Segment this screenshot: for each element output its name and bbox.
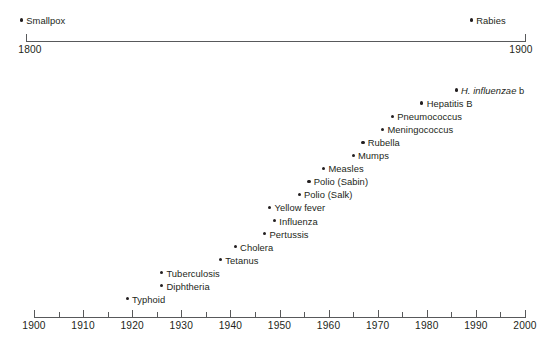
timeline-point-meningococcus: Meningococcus [381,123,453,135]
timeline-point-label: Typhoid [129,294,165,305]
timeline-point-smallpox: Smallpox [20,14,65,26]
point-marker-icon [298,193,301,196]
point-marker-icon [20,18,23,21]
timeline-point-label: Tetanus [222,255,258,266]
vaccine-timeline-chart: SmallpoxRabies18001900 H. influenzae bHe… [0,0,560,353]
timeline-point-mumps: Mumps [352,149,389,161]
timeline-point-label: Rubella [365,137,400,148]
timeline-point-rubella: Rubella [361,136,400,148]
timeline-point-label: Diphtheria [163,281,209,292]
timeline-point-label: Cholera [237,242,273,253]
modern-era-minor-tick-1955 [304,312,305,317]
early-era-tick-1800 [26,34,27,41]
modern-era-tick-label-2000: 2000 [495,320,555,331]
modern-era-tick-1980 [427,310,428,317]
point-marker-icon [352,154,355,157]
modern-era-axis-line [34,317,526,318]
point-marker-icon [307,180,310,183]
timeline-point-label: Mumps [355,150,389,161]
timeline-point-pneumococcus: Pneumococcus [391,110,462,122]
point-marker-icon [470,18,473,21]
modern-era-minor-tick-1995 [500,312,501,317]
timeline-point-typhoid: Typhoid [126,293,166,305]
point-marker-icon [391,115,394,118]
modern-era-minor-tick-1975 [402,312,403,317]
timeline-point-pertussis: Pertussis [263,228,308,240]
timeline-point-label: Yellow fever [271,202,325,213]
timeline-point-label: Polio (Sabin) [311,176,369,187]
timeline-point-label: Tuberculosis [163,268,220,279]
modern-era-tick-1960 [329,310,330,317]
modern-era-tick-1970 [378,310,379,317]
timeline-point-tetanus: Tetanus [219,254,259,266]
timeline-point-label: Hepatitis B [423,98,472,109]
point-marker-icon [381,128,384,131]
modern-era-tick-1910 [83,310,84,317]
timeline-point-h-influenzae: H. influenzae b [455,84,525,96]
timeline-point-label: H. influenzae b [458,85,524,96]
modern-era-minor-tick-1915 [108,312,109,317]
timeline-point-diphtheria: Diphtheria [160,280,210,292]
timeline-point-yellow-fever: Yellow fever [268,201,325,213]
early-era-tick-label-1800: 1800 [0,44,60,55]
modern-era-minor-tick-1925 [157,312,158,317]
modern-era-minor-tick-1945 [255,312,256,317]
modern-era-minor-tick-1935 [206,312,207,317]
point-marker-icon [361,141,364,144]
timeline-point-polio-sabin: Polio (Sabin) [307,175,368,187]
timeline-point-rabies: Rabies [470,14,506,26]
modern-era-tick-1950 [280,310,281,317]
timeline-point-tuberculosis: Tuberculosis [160,267,220,279]
timeline-point-label: Polio (Salk) [301,189,353,200]
timeline-point-label: Pertussis [266,229,308,240]
modern-era-tick-1930 [181,310,182,317]
modern-era-tick-2000 [525,310,526,317]
point-marker-icon [455,88,458,91]
modern-era-minor-tick-1905 [59,312,60,317]
modern-era-minor-tick-1965 [353,312,354,317]
timeline-point-polio-salk: Polio (Salk) [298,188,353,200]
timeline-point-cholera: Cholera [234,241,274,253]
modern-era-minor-tick-1985 [451,312,452,317]
timeline-point-hepatitis-b: Hepatitis B [420,97,472,109]
timeline-point-influenza: Influenza [273,215,318,227]
modern-era-tick-1990 [476,310,477,317]
timeline-point-label: Smallpox [23,15,65,26]
timeline-point-label: Influenza [276,216,318,227]
modern-era-tick-1920 [132,310,133,317]
modern-era-tick-1900 [34,310,35,317]
timeline-point-label: Rabies [473,15,506,26]
timeline-point-label: Measles [325,163,363,174]
timeline-point-label: Pneumococcus [394,111,462,122]
timeline-point-measles: Measles [322,162,364,174]
early-era-tick-1900 [525,34,526,41]
early-era-tick-label-1900: 1900 [491,44,551,55]
modern-era-tick-1940 [230,310,231,317]
timeline-point-label: Meningococcus [384,124,453,135]
early-era-axis-line [26,41,526,42]
